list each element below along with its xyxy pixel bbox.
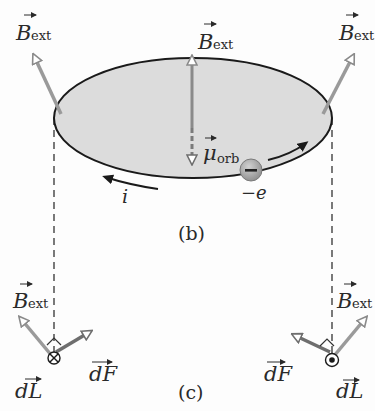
svg-text:ext: ext — [28, 296, 49, 311]
label-dF-left: dF — [89, 362, 118, 386]
svg-text:B: B — [338, 21, 354, 45]
label-dL-right: dL — [336, 379, 363, 403]
caption-panel-b: (b) — [178, 222, 205, 244]
svg-text:dF: dF — [89, 362, 118, 386]
svg-text:B: B — [197, 30, 213, 54]
caption-panel-c: (c) — [178, 381, 203, 403]
svg-text:dF: dF — [264, 362, 293, 386]
label-dF-right: dF — [264, 362, 293, 386]
label-electron-charge: −e — [241, 182, 267, 203]
svg-text:ext: ext — [213, 37, 234, 52]
label-current: i — [122, 185, 128, 207]
svg-text:μ: μ — [203, 141, 217, 165]
orbit-diagram: B ext B ext B ext μ orb −e i (b) B — [0, 0, 375, 411]
svg-text:ext: ext — [352, 296, 373, 311]
electron — [240, 159, 262, 181]
svg-text:ext: ext — [31, 28, 52, 43]
svg-text:B: B — [12, 289, 28, 313]
label-dL-left: dL — [15, 379, 42, 403]
svg-text:dL: dL — [15, 379, 42, 403]
svg-text:ext: ext — [354, 28, 375, 43]
svg-text:dL: dL — [336, 379, 363, 403]
svg-text:B: B — [336, 289, 352, 313]
svg-text:orb: orb — [217, 151, 239, 166]
svg-text:B: B — [15, 21, 31, 45]
